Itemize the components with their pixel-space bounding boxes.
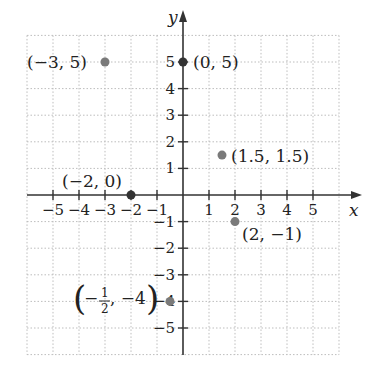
x-tick-label: −4 bbox=[68, 201, 90, 219]
x-axis-arrow-icon bbox=[351, 191, 362, 199]
data-point bbox=[179, 58, 188, 67]
y-tick-label: 4 bbox=[165, 80, 175, 98]
point-label-1.5-1.5: (1.5, 1.5) bbox=[231, 146, 309, 166]
fraction-label-rest: , −4 bbox=[110, 288, 146, 308]
y-axis-title: y bbox=[167, 7, 178, 27]
fraction-label-minus: − bbox=[84, 288, 98, 308]
point-label-0-5: (0, 5) bbox=[193, 52, 239, 72]
y-tick-label: −1 bbox=[153, 213, 175, 231]
point-label-neg2-0: (−2, 0) bbox=[62, 171, 122, 191]
y-axis-arrow-icon bbox=[179, 10, 187, 22]
y-tick-label: 5 bbox=[165, 53, 175, 71]
data-point bbox=[231, 217, 240, 226]
x-tick-label: 2 bbox=[230, 201, 240, 219]
fraction-numerator: 1 bbox=[101, 286, 109, 300]
fraction-label-right-paren: ) bbox=[146, 278, 159, 318]
y-tick-label: 2 bbox=[165, 133, 175, 151]
x-tick-label: 3 bbox=[256, 201, 266, 219]
data-point bbox=[127, 191, 136, 200]
x-tick-label: 5 bbox=[308, 201, 318, 219]
x-axis-title: x bbox=[349, 200, 359, 220]
x-tick-label: 4 bbox=[282, 201, 292, 219]
x-tick-label: −5 bbox=[42, 201, 64, 219]
data-point bbox=[166, 297, 175, 306]
point-label-neg3-5: (−3, 5) bbox=[27, 52, 87, 72]
y-tick-label: −5 bbox=[153, 319, 175, 337]
y-tick-label: 1 bbox=[165, 159, 175, 177]
x-tick-label: 1 bbox=[204, 201, 214, 219]
point-label-neg-half-neg4: ( − 1 2 , −4 ) bbox=[73, 278, 159, 318]
coordinate-plane: x y −5−4−3−2−112345−5−4−3−2−112345 (−3, … bbox=[0, 0, 390, 381]
data-point bbox=[218, 151, 227, 160]
point-label-2-neg1: (2, −1) bbox=[242, 224, 302, 244]
y-tick-label: 3 bbox=[165, 106, 175, 124]
x-tick-label: −3 bbox=[94, 201, 116, 219]
y-tick-label: −2 bbox=[153, 239, 175, 257]
x-tick-label: −2 bbox=[120, 201, 142, 219]
data-point bbox=[101, 58, 110, 67]
fraction-denominator: 2 bbox=[101, 302, 109, 316]
